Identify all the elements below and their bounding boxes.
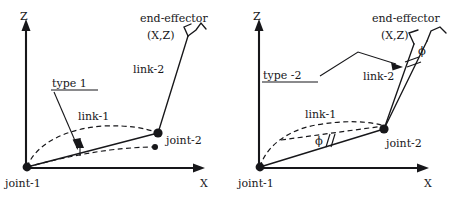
end-effector-coords-left: (X,Z) bbox=[147, 29, 175, 42]
end-effector-coords-right: (X,Z) bbox=[381, 29, 409, 42]
joint-2-label-right: joint-2 bbox=[384, 137, 422, 150]
upper-phi-angle-label: ϕ bbox=[418, 44, 426, 58]
lower-phi-angle-label: ϕ bbox=[315, 134, 323, 148]
link-2-label-left: link-2 bbox=[133, 63, 164, 76]
robot-manipulator-figure: Z X joint-1 joint-2 link-1 link-2 end-ef… bbox=[0, 0, 466, 208]
type-2-label: type -2 bbox=[263, 69, 301, 82]
link-2-label-right: link-2 bbox=[363, 70, 394, 83]
link-1-label-right: link-1 bbox=[305, 108, 336, 121]
z-axis-label-right: Z bbox=[253, 10, 261, 23]
link-1-label-left: link-1 bbox=[78, 110, 109, 123]
x-axis-label-right: X bbox=[424, 177, 432, 190]
z-axis-label-left: Z bbox=[20, 10, 28, 23]
joint-1-label-left: joint-1 bbox=[3, 177, 41, 190]
x-axis-label-left: X bbox=[200, 177, 208, 190]
joint-1-label-right: joint-1 bbox=[236, 177, 274, 190]
figure-text-layer: Z X joint-1 joint-2 link-1 link-2 end-ef… bbox=[0, 0, 466, 208]
end-effector-label-left: end-effector bbox=[140, 12, 208, 25]
joint-2-label-left: joint-2 bbox=[164, 134, 202, 147]
end-effector-label-right: end-effector bbox=[372, 12, 440, 25]
type-1-label: type 1 bbox=[52, 77, 87, 90]
